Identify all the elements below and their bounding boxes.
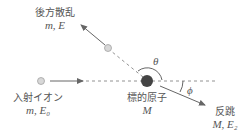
recoil-label: 反跳 M, E₂: [205, 106, 245, 130]
backscatter-label: 後方散乱 m, E: [30, 7, 80, 31]
incident-label: 入射イオン m, E₀: [8, 92, 68, 116]
scattered-ion: [105, 45, 112, 52]
scatter-path-dashed: [111, 51, 143, 77]
phi-label: ϕ: [187, 84, 193, 96]
target-atom: [141, 75, 153, 87]
incident-ion: [38, 78, 45, 85]
theta-label: θ: [153, 55, 158, 67]
backscatter-arrow: [81, 25, 105, 45]
target-label: 標的原子 M: [122, 92, 172, 116]
phi-arc: [180, 81, 183, 92]
